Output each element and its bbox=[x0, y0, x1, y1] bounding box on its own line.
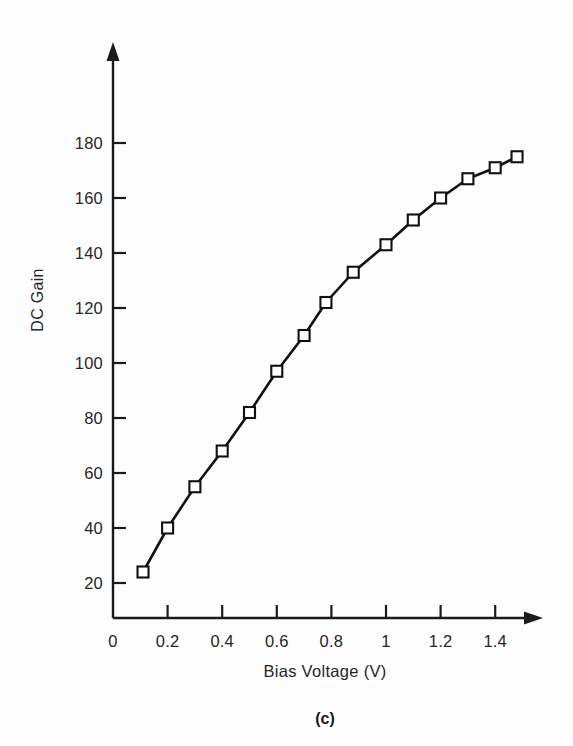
y-axis-tick-label: 120 bbox=[75, 299, 103, 318]
y-axis-tick-label: 20 bbox=[84, 574, 103, 593]
data-point-marker bbox=[462, 173, 473, 184]
y-axis-arrowhead bbox=[107, 42, 120, 61]
x-axis-arrowhead bbox=[524, 612, 543, 625]
data-point-marker bbox=[244, 407, 255, 418]
data-point-marker bbox=[408, 215, 419, 226]
y-axis-tick-label: 60 bbox=[84, 464, 103, 483]
y-axis-title: DC Gain bbox=[29, 268, 47, 331]
data-point-marker bbox=[490, 162, 501, 173]
data-point-marker bbox=[348, 267, 359, 278]
x-axis-tick-label: 1.2 bbox=[429, 632, 453, 651]
y-axis-tick-label: 140 bbox=[75, 244, 103, 263]
axis-ticks bbox=[113, 143, 495, 618]
x-axis-tick-label: 0.8 bbox=[320, 632, 344, 651]
data-point-marker bbox=[512, 151, 523, 162]
y-axis-tick-label: 100 bbox=[75, 354, 103, 373]
panel-caption: (c) bbox=[315, 710, 335, 728]
data-line bbox=[143, 157, 517, 572]
y-axis-tick-label: 160 bbox=[75, 189, 103, 208]
data-point-marker bbox=[271, 366, 282, 377]
data-point-marker bbox=[435, 193, 446, 204]
x-axis-tick-label: 0.6 bbox=[265, 632, 289, 651]
data-point-marker bbox=[217, 446, 228, 457]
x-axis-title: Bias Voltage (V) bbox=[263, 662, 386, 681]
axes bbox=[107, 42, 544, 625]
data-series-dc-gain bbox=[138, 151, 523, 577]
data-point-marker bbox=[138, 567, 149, 578]
data-point-marker bbox=[299, 330, 310, 341]
x-axis-tick-label: 1.4 bbox=[483, 632, 507, 651]
y-axis-tick-label: 40 bbox=[84, 519, 103, 538]
x-axis-tick-label: 0 bbox=[108, 632, 117, 651]
data-point-marker bbox=[189, 481, 200, 492]
data-point-marker bbox=[320, 297, 331, 308]
data-point-marker bbox=[381, 239, 392, 250]
x-axis-tick-label: 0.2 bbox=[156, 632, 180, 651]
y-axis-tick-label: 80 bbox=[84, 409, 103, 428]
x-axis-tick-label: 1 bbox=[381, 632, 390, 651]
data-point-marker bbox=[162, 523, 173, 534]
y-axis-tick-label: 180 bbox=[75, 134, 103, 153]
figure-panel: 20406080100120140160180 00.20.40.60.811.… bbox=[0, 0, 573, 746]
x-axis-tick-label: 0.4 bbox=[210, 632, 234, 651]
